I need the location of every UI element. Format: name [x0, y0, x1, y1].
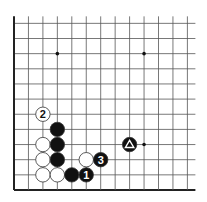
black-stone-body [50, 137, 64, 151]
black-stone-triangle-marked [122, 137, 136, 151]
white-stone [79, 153, 93, 167]
white-stone-move-2: 2 [36, 107, 50, 121]
move-number-label: 1 [83, 169, 89, 181]
black-stone-body [50, 153, 64, 167]
black-stone-body [65, 168, 79, 182]
white-stone-body [50, 168, 64, 182]
white-stone-body [79, 153, 93, 167]
white-stone [36, 153, 50, 167]
go-board: 231 [0, 0, 207, 202]
black-stone-move-1: 1 [79, 168, 93, 182]
star-point [142, 143, 146, 147]
black-stone [50, 122, 64, 136]
black-stone-body [50, 122, 64, 136]
white-stone-body [36, 153, 50, 167]
move-number-label: 3 [98, 154, 104, 166]
white-stone [50, 168, 64, 182]
white-stone [36, 168, 50, 182]
black-stone [65, 168, 79, 182]
white-stone-body [36, 137, 50, 151]
black-stone-move-3: 3 [94, 153, 108, 167]
white-stone-body [36, 168, 50, 182]
black-stone [50, 137, 64, 151]
star-point [142, 52, 146, 56]
star-point [56, 52, 60, 56]
white-stone [36, 137, 50, 151]
black-stone [50, 153, 64, 167]
move-number-label: 2 [40, 108, 46, 120]
